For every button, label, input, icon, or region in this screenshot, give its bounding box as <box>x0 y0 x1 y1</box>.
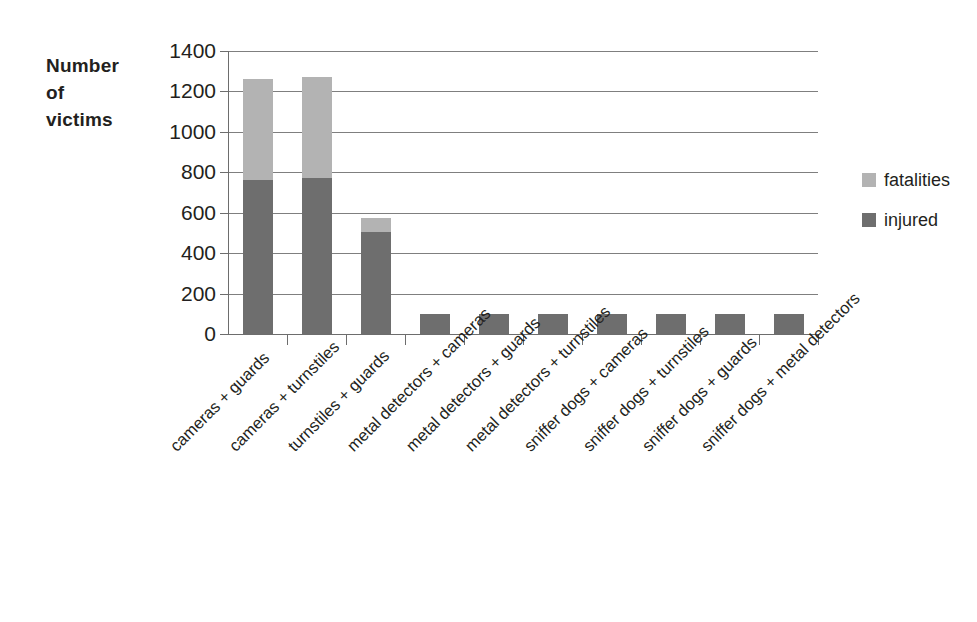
legend: fatalitiesinjured <box>862 160 977 240</box>
bar-segment-fatalities <box>302 77 332 178</box>
bar-segment-fatalities <box>361 218 391 232</box>
x-axis-tick-label: cameras + turnstiles <box>225 350 330 455</box>
legend-label: fatalities <box>884 171 950 189</box>
bar-chart: Number of victims 1400120010008006004002… <box>0 0 977 622</box>
bar-7 <box>656 314 686 334</box>
bar-2 <box>361 218 391 334</box>
legend-item: fatalities <box>862 160 977 200</box>
y-axis-tick-label: 1000 <box>146 121 216 142</box>
legend-item: injured <box>862 200 977 240</box>
bar-segment-injured <box>774 314 804 334</box>
x-axis-tick <box>287 335 288 345</box>
x-axis-tick-label: metal detectors + guards <box>402 350 507 455</box>
y-axis-tick-label: 0 <box>146 323 216 344</box>
y-axis-tick-labels: 1400120010008006004002000 <box>138 0 216 400</box>
bar-segment-fatalities <box>243 79 273 180</box>
bar-1 <box>302 77 332 334</box>
bar-0 <box>243 79 273 334</box>
bar-segment-injured <box>302 178 332 334</box>
legend-swatch <box>862 213 876 227</box>
bar-segment-injured <box>243 180 273 334</box>
y-axis-tick-label: 800 <box>146 161 216 182</box>
y-axis-tick-label: 1400 <box>146 40 216 61</box>
x-axis-tick-label: sniffer dogs + guards <box>638 350 743 455</box>
y-axis-tick-label: 600 <box>146 202 216 223</box>
x-axis-tick-label: turnstiles + guards <box>284 350 389 455</box>
x-axis-tick-label: metal detectors + cameras <box>343 350 448 455</box>
bar-segment-injured <box>361 232 391 334</box>
x-axis-tick <box>759 335 760 345</box>
y-axis-tick-label: 1200 <box>146 80 216 101</box>
y-axis-tick-label: 200 <box>146 283 216 304</box>
x-axis-tick-label: metal detectors + turnstiles <box>461 350 566 455</box>
x-axis-tick <box>405 335 406 345</box>
bar-9 <box>774 314 804 334</box>
y-axis-tick-label: 400 <box>146 242 216 263</box>
x-axis-tick-label: sniffer dogs + cameras <box>520 350 625 455</box>
bar-segment-injured <box>420 314 450 334</box>
legend-label: injured <box>884 211 938 229</box>
legend-swatch <box>862 173 876 187</box>
gridline <box>228 51 818 52</box>
bar-8 <box>715 314 745 334</box>
bar-3 <box>420 314 450 334</box>
bar-segment-injured <box>715 314 745 334</box>
x-axis-tick-label: sniffer dogs + metal detectors <box>697 350 802 455</box>
x-axis-tick <box>346 335 347 345</box>
x-axis-tick-label: sniffer dogs + turnstiles <box>579 350 684 455</box>
y-axis-line <box>228 51 229 335</box>
bar-segment-injured <box>656 314 686 334</box>
